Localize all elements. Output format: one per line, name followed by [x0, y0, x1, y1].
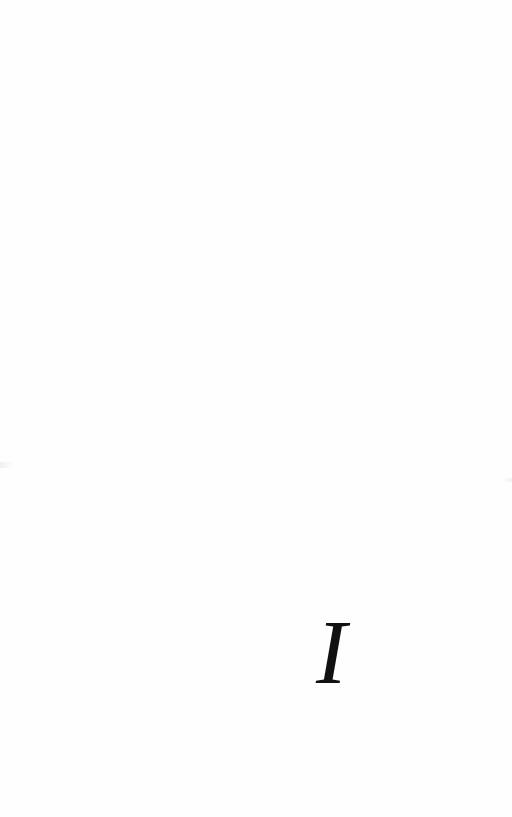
section-numeral: I [316, 606, 347, 698]
page-edge-mark-right [502, 478, 512, 482]
book-page: I [0, 0, 512, 817]
page-edge-mark-left [0, 462, 14, 468]
